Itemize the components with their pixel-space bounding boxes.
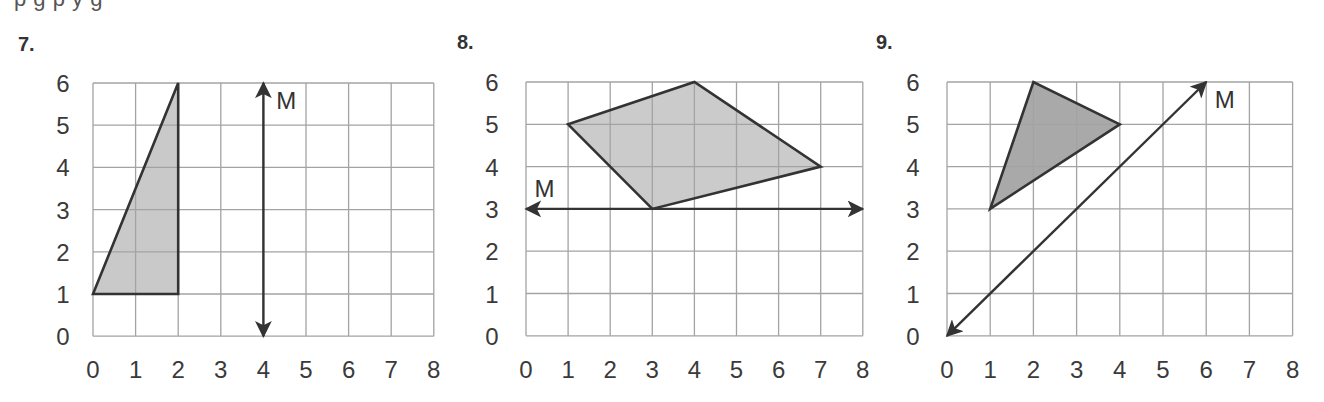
x-tick-label: 2 <box>604 356 617 383</box>
y-tick-label: 1 <box>906 281 919 308</box>
y-tick-label: 3 <box>56 197 69 224</box>
y-tick-label: 0 <box>56 323 69 350</box>
x-tick-label: 6 <box>342 356 355 383</box>
y-tick-label: 5 <box>906 111 919 138</box>
graph-problem-7: M0123456012345678 <box>56 70 440 383</box>
x-tick-label: 7 <box>1243 356 1256 383</box>
y-tick-label: 5 <box>56 112 69 139</box>
y-tick-label: 3 <box>485 196 498 223</box>
y-tick-label: 4 <box>906 154 919 181</box>
x-tick-label: 3 <box>646 356 659 383</box>
x-tick-label: 2 <box>1027 356 1040 383</box>
y-tick-label: 2 <box>485 238 498 265</box>
x-tick-label: 0 <box>86 356 99 383</box>
x-tick-label: 1 <box>561 356 574 383</box>
y-tick-label: 6 <box>906 69 919 96</box>
x-tick-label: 5 <box>299 356 312 383</box>
graphs-canvas: M0123456012345678 M0123456012345678 M012… <box>0 0 1324 402</box>
line-m-label: M <box>276 87 296 114</box>
y-tick-label: 1 <box>485 281 498 308</box>
y-tick-label: 2 <box>56 239 69 266</box>
line-m-label: M <box>1215 86 1235 113</box>
y-tick-label: 0 <box>906 323 919 350</box>
graph-problem-9: M0123456012345678 <box>906 69 1299 383</box>
x-tick-label: 4 <box>257 356 270 383</box>
x-tick-label: 8 <box>856 356 869 383</box>
x-tick-label: 8 <box>427 356 440 383</box>
y-tick-label: 6 <box>56 70 69 97</box>
y-tick-label: 6 <box>485 69 498 96</box>
y-tick-label: 5 <box>485 111 498 138</box>
x-tick-label: 6 <box>772 356 785 383</box>
x-tick-label: 1 <box>129 356 142 383</box>
y-tick-label: 3 <box>906 196 919 223</box>
y-tick-label: 1 <box>56 281 69 308</box>
y-tick-label: 4 <box>56 154 69 181</box>
y-tick-label: 2 <box>906 238 919 265</box>
x-tick-label: 8 <box>1286 356 1299 383</box>
shaded-polygon <box>990 82 1120 209</box>
x-tick-label: 4 <box>688 356 701 383</box>
y-tick-label: 4 <box>485 154 498 181</box>
x-tick-label: 5 <box>730 356 743 383</box>
x-tick-label: 3 <box>1070 356 1083 383</box>
x-tick-label: 7 <box>385 356 398 383</box>
x-tick-label: 0 <box>940 356 953 383</box>
x-tick-label: 6 <box>1200 356 1213 383</box>
x-tick-label: 3 <box>214 356 227 383</box>
x-tick-label: 0 <box>519 356 532 383</box>
x-tick-label: 1 <box>984 356 997 383</box>
y-tick-label: 0 <box>485 323 498 350</box>
x-tick-label: 5 <box>1156 356 1169 383</box>
graph-problem-8: M0123456012345678 <box>485 69 869 383</box>
x-tick-label: 4 <box>1113 356 1126 383</box>
line-m-label: M <box>534 175 554 202</box>
x-tick-label: 2 <box>172 356 185 383</box>
x-tick-label: 7 <box>814 356 827 383</box>
